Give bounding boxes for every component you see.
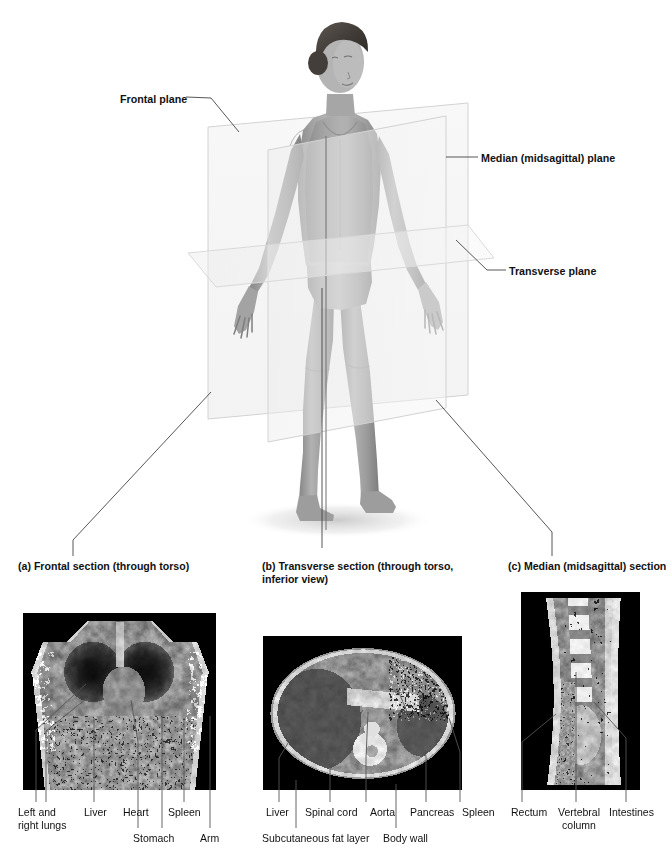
median-section-leader [436, 400, 552, 556]
human-figure [234, 22, 443, 521]
frontal-plane-label: Frontal plane [120, 93, 187, 106]
frontal-section-scan [23, 613, 216, 790]
right-hand [418, 282, 443, 334]
label-spleen-transverse: Spleen [462, 806, 495, 819]
torso [298, 112, 381, 266]
frontal-section-leader [73, 392, 211, 556]
hair-bun [308, 51, 328, 75]
frontal-section-caption: (a) Frontal section (through torso) [18, 560, 189, 573]
transverse-section-scan [263, 636, 462, 790]
neck [326, 94, 355, 116]
label-body-wall: Body wall [383, 832, 428, 845]
right-leg [340, 300, 379, 497]
median-section-scan [521, 592, 640, 790]
label-arm: Arm [200, 832, 219, 845]
median-section-caption: (c) Median (midsagittal) section [508, 560, 666, 573]
label-left-and-right-lungs: Left and right lungs [18, 806, 66, 831]
label-vertebral-column: Vertebral column [558, 806, 600, 831]
left-arm [249, 134, 304, 293]
right-arm [376, 136, 426, 290]
frontal-plane-shape [208, 103, 468, 419]
pelvis [306, 248, 372, 310]
floor-shadow [242, 502, 432, 538]
transverse-plane-shape [188, 225, 494, 287]
plane-leader-lines [186, 97, 506, 270]
head [316, 31, 364, 93]
transverse-section-caption: (b) Transverse section (through torso, i… [262, 560, 453, 586]
label-spinal-cord: Spinal cord [305, 806, 358, 819]
bodysuit [305, 116, 373, 262]
label-subcutaneous-fat-layer: Subcutaneous fat layer [262, 832, 369, 845]
median-midsagittal-plane-shape [268, 116, 446, 442]
label-rectum: Rectum [511, 806, 547, 819]
label-intestines: Intestines [609, 806, 654, 819]
left-foot [296, 495, 334, 521]
left-hand [234, 286, 258, 338]
frontal-plane-leader [186, 97, 239, 132]
label-aorta: Aorta [370, 806, 395, 819]
label-heart: Heart [123, 806, 149, 819]
section-leader-lines [73, 288, 552, 556]
left-leg [299, 300, 334, 502]
label-liver-transverse: Liver [266, 806, 289, 819]
anatomy-planes-figure: Frontal plane Median (midsagittal) plane… [0, 0, 672, 864]
label-stomach: Stomach [133, 832, 174, 845]
right-foot [360, 491, 396, 513]
label-spleen-frontal: Spleen [168, 806, 201, 819]
label-pancreas: Pancreas [410, 806, 454, 819]
label-liver-frontal: Liver [84, 806, 107, 819]
median-midsagittal-plane-label: Median (midsagittal) plane [481, 152, 615, 165]
transverse-plane-label: Transverse plane [509, 265, 596, 278]
transverse-plane-leader [456, 240, 506, 270]
hair [316, 22, 368, 62]
